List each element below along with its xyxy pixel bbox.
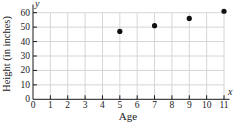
x-tick-label: 8: [170, 100, 175, 110]
x-tick-label: 9: [187, 100, 192, 110]
data-point: [187, 16, 192, 21]
x-tick-label: 4: [100, 100, 105, 110]
data-point: [117, 29, 122, 34]
x-tick-label: 3: [83, 100, 88, 110]
y-tick-label: 20: [21, 65, 31, 75]
x-tick-label: 11: [219, 100, 228, 110]
x-tick-label: 2: [65, 100, 70, 110]
y-tick-label: 40: [21, 37, 31, 47]
x-tick-label: 10: [202, 100, 212, 110]
x-tick-label: 6: [135, 100, 140, 110]
x-axis-title: Age: [108, 110, 148, 123]
y-axis-symbol: y: [35, 0, 39, 9]
y-tick-label: 30: [21, 51, 31, 61]
y-tick-label: 10: [21, 80, 31, 90]
y-tick-label: 60: [21, 8, 31, 18]
data-point: [152, 23, 157, 28]
y-axis-title: Height (in inches): [1, 12, 13, 96]
x-tick-label: 1: [48, 100, 53, 110]
x-tick-label: 7: [152, 100, 157, 110]
y-tick-label: 0: [25, 94, 30, 104]
height-vs-age-scatter-figure: 012345678910110102030405060 y x Height (…: [0, 0, 236, 128]
x-axis-symbol: x: [228, 87, 232, 97]
x-tick-label: 0: [31, 100, 36, 110]
data-point: [221, 9, 226, 14]
x-tick-label: 5: [117, 100, 122, 110]
plot-area: 012345678910110102030405060: [0, 0, 236, 128]
y-tick-label: 50: [21, 22, 31, 32]
